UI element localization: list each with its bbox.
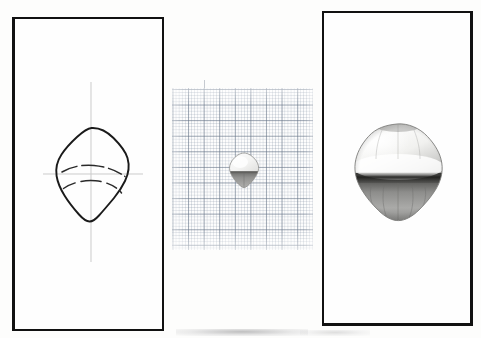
panel-detail-photo — [322, 11, 473, 326]
figure-plate — [0, 0, 481, 338]
specimen-photo-enlarged — [344, 113, 456, 229]
specimen-outline — [56, 128, 128, 222]
panel-line-drawing — [12, 17, 164, 331]
scan-smudge-secondary — [300, 330, 370, 336]
scan-smudge — [176, 329, 308, 336]
detail-photo-stage — [324, 13, 470, 323]
interior-contour-lower — [64, 181, 122, 193]
specimen-photo-scaled — [226, 149, 262, 193]
interior-contour-upper — [62, 165, 125, 176]
line-drawing-stage — [15, 19, 162, 329]
